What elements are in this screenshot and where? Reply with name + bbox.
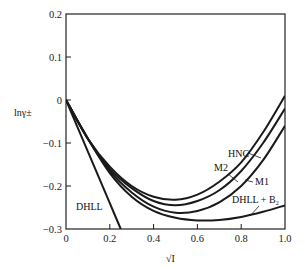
x-tick-label: 1.0 xyxy=(278,233,291,244)
y-tick-label: −0.1 xyxy=(43,138,62,149)
y-tick-label: 0.1 xyxy=(49,52,62,63)
curve-label: M2 xyxy=(214,162,228,173)
curve-labels: DHLLHNCM2M1DHLL + B₂ xyxy=(76,148,279,212)
curve-label: DHLL + B₂ xyxy=(232,194,279,205)
curve-label: HNC xyxy=(228,148,249,159)
curve-label: DHLL xyxy=(76,201,103,212)
chart-canvas: 00.20.40.60.81.00.20.10−0.1−0.2−0.3 DHLL… xyxy=(0,0,305,269)
y-tick-label: 0 xyxy=(57,95,62,106)
y-tick-label: −0.3 xyxy=(43,224,62,235)
y-tick-label: 0.2 xyxy=(49,9,62,20)
curve-label: M1 xyxy=(255,176,269,187)
curve-hnc xyxy=(66,96,285,200)
x-tick-label: 0.8 xyxy=(235,233,248,244)
x-tick-label: 0 xyxy=(63,233,68,244)
x-axis-title: √I xyxy=(166,253,175,264)
x-tick-label: 0.2 xyxy=(103,233,116,244)
y-tick-label: −0.2 xyxy=(43,181,62,192)
x-tick-label: 0.4 xyxy=(147,233,161,244)
y-axis-title: lnγ± xyxy=(14,107,32,118)
x-tick-label: 0.6 xyxy=(191,233,204,244)
